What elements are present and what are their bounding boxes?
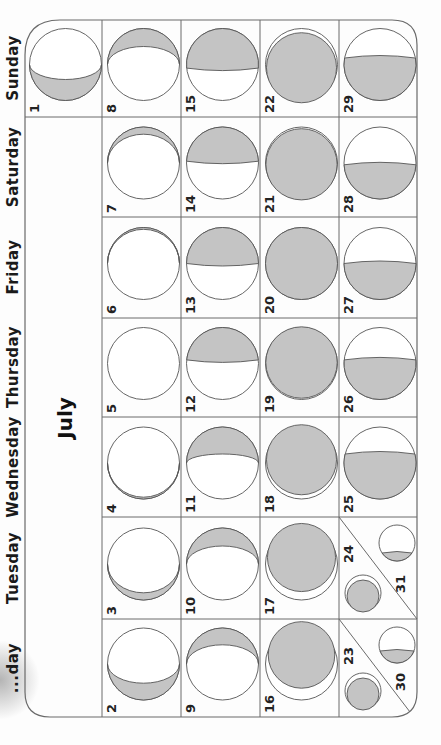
moon-icon <box>344 29 416 101</box>
day-cell-28[interactable]: 28 <box>341 127 416 213</box>
moon-icon <box>108 228 180 300</box>
moon-phase-cells: 1234567891011121314151617181920212225262… <box>27 28 416 713</box>
day-number: 1 <box>27 104 42 113</box>
day-number: 18 <box>262 495 277 513</box>
day-cell-14[interactable]: 14 <box>183 127 259 213</box>
day-cell-16[interactable]: 16 <box>262 622 338 713</box>
moon-icon <box>344 228 416 300</box>
weekday-label-sunday: Sunday <box>4 35 22 100</box>
day-cell-29[interactable]: 29 <box>341 29 416 114</box>
day-cell-1[interactable]: 1 <box>27 29 102 114</box>
weekday-label-tuesday: Tuesday <box>4 532 22 604</box>
weekday-label-wednesday: Wednesday <box>4 416 22 517</box>
day-cell-19[interactable]: 19 <box>262 327 338 413</box>
day-cell-18[interactable]: 18 <box>262 425 338 513</box>
day-number: 14 <box>183 195 198 213</box>
day-number: 29 <box>341 95 356 113</box>
moon-icon <box>266 622 338 700</box>
day-cell-2[interactable]: 2 <box>104 628 180 713</box>
day-cell-15[interactable]: 15 <box>183 29 259 114</box>
day-number: 20 <box>262 296 277 314</box>
day-cell-6[interactable]: 6 <box>104 228 180 315</box>
weekday-label-saturday: Saturday <box>4 127 22 207</box>
moon-icon <box>108 127 180 199</box>
day-number: 30 <box>393 673 408 691</box>
day-number: 15 <box>183 95 198 113</box>
day-cell-7[interactable]: 7 <box>104 127 180 213</box>
day-cell-17[interactable]: 17 <box>262 523 338 615</box>
day-cell-4[interactable]: 4 <box>104 427 180 513</box>
moon-calendar-grid: Sunday Saturday Friday Thursday Wednesda… <box>0 0 441 745</box>
moon-icon <box>108 427 180 499</box>
moon-icon <box>344 328 416 400</box>
day-number: 31 <box>393 575 408 593</box>
moon-icon <box>30 29 102 101</box>
day-number: 4 <box>104 504 119 513</box>
moon-icon <box>266 228 338 300</box>
day-cell-20[interactable]: 20 <box>262 228 338 315</box>
day-number: 21 <box>262 195 277 213</box>
moon-icon <box>187 528 259 600</box>
day-number: 22 <box>262 95 277 113</box>
moon-icon <box>266 127 338 200</box>
day-cell-22[interactable]: 22 <box>262 29 338 114</box>
moon-icon <box>344 427 416 499</box>
moon-icon <box>345 575 381 612</box>
day-cell-3[interactable]: 3 <box>104 528 180 615</box>
day-cell-23-30[interactable]: 2330 <box>341 627 415 710</box>
weekday-labels: Sunday Saturday Friday Thursday Wednesda… <box>4 35 22 693</box>
moon-icon <box>266 523 338 600</box>
moon-icon <box>379 627 415 663</box>
day-number: 3 <box>104 606 119 615</box>
moon-icon <box>266 425 338 499</box>
day-cell-9[interactable]: 9 <box>183 628 259 713</box>
day-number: 25 <box>341 495 356 513</box>
day-cell-5[interactable]: 5 <box>104 328 180 414</box>
day-number: 28 <box>341 195 356 213</box>
moon-icon <box>187 228 259 300</box>
day-cell-27[interactable]: 27 <box>341 228 416 315</box>
moon-icon <box>266 29 338 103</box>
calendar-page: Sunday Saturday Friday Thursday Wednesda… <box>0 0 441 745</box>
moon-icon <box>187 628 259 700</box>
moon-icon <box>379 525 415 561</box>
day-cell-10[interactable]: 10 <box>183 528 259 615</box>
day-cell-12[interactable]: 12 <box>183 327 259 413</box>
day-cell-25[interactable]: 25 <box>341 427 416 513</box>
day-cell-26[interactable]: 26 <box>341 328 416 414</box>
day-number: 11 <box>183 495 198 513</box>
day-number: 16 <box>262 695 277 713</box>
moon-icon <box>108 528 180 600</box>
day-cell-8[interactable]: 8 <box>104 28 180 113</box>
day-cell-21[interactable]: 21 <box>262 127 338 213</box>
moon-icon <box>108 628 180 700</box>
moon-icon <box>187 327 259 399</box>
day-number: 13 <box>183 296 198 314</box>
day-number: 5 <box>104 404 119 413</box>
day-number: 10 <box>183 597 198 615</box>
month-title: July <box>53 397 77 441</box>
day-cell-13[interactable]: 13 <box>183 228 259 315</box>
day-number: 26 <box>341 395 356 413</box>
moon-icon <box>187 29 259 101</box>
day-number: 2 <box>104 704 119 713</box>
moon-icon <box>187 127 259 199</box>
moon-icon <box>344 127 416 199</box>
day-number: 7 <box>104 204 119 213</box>
moon-icon <box>266 327 338 400</box>
day-number: 9 <box>183 704 198 713</box>
moon-icon <box>108 28 180 100</box>
weekday-label-friday: Friday <box>4 239 22 294</box>
day-number: 19 <box>262 395 277 413</box>
day-cell-11[interactable]: 11 <box>183 427 259 513</box>
day-number: 12 <box>183 395 198 413</box>
day-number: 8 <box>104 104 119 113</box>
moon-icon <box>345 673 381 710</box>
moon-icon <box>108 328 180 400</box>
day-number: 17 <box>262 597 277 615</box>
day-number: 24 <box>341 545 356 563</box>
day-number: 23 <box>341 647 356 665</box>
weekday-label-thursday: Thursday <box>4 326 22 408</box>
day-number: 27 <box>341 296 356 314</box>
day-number: 6 <box>104 305 119 314</box>
